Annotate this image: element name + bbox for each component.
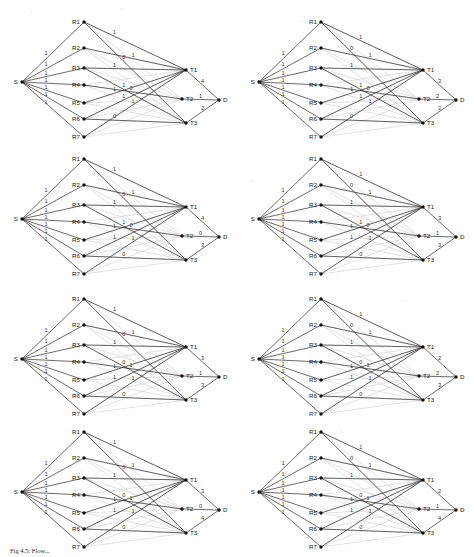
node-relay-R3-dot	[319, 476, 322, 479]
edge-label-R2-T1: 1	[368, 462, 371, 468]
edge-label-S-R3: 1	[44, 480, 47, 486]
faint-edge-R7-T3	[84, 400, 186, 414]
edge-label-R1-T1: 1	[113, 439, 116, 445]
node-source-S-dot	[20, 357, 23, 360]
node-relay-R3-dot	[319, 343, 322, 346]
node-terminal-T2-dot	[417, 507, 420, 510]
edge-label-T3-D: 2	[201, 105, 204, 111]
node-terminal-T3-label: T3	[427, 529, 435, 536]
edge-label-R3-T1: 1	[113, 472, 116, 478]
node-terminal-T2-label: T2	[423, 232, 431, 239]
edge-R5-T1	[84, 347, 186, 380]
edge-R1-T1	[84, 299, 186, 347]
edge-R5-T1	[84, 480, 186, 513]
node-sink-D-dot	[217, 508, 220, 511]
edge-label-R3-T3: 1	[122, 82, 125, 88]
edge-S-R1	[259, 22, 321, 82]
node-relay-R2-dot	[82, 323, 85, 326]
edge-label-S-R6: 1	[281, 501, 284, 507]
node-relay-R3-label: R3	[72, 64, 80, 71]
node-source-S-dot	[257, 217, 260, 220]
edge-label-R1-T1: 1	[359, 171, 362, 177]
node-relay-R5-label: R5	[309, 236, 317, 243]
panel-canvas-0: 11111111011101110412SR1R2R3R4R5R6R7T1T2T…	[0, 4, 237, 140]
edge-label-R6-T3: 0	[359, 391, 362, 397]
edge-R3-T1	[84, 478, 186, 480]
edge-label-T1-D: 4	[201, 78, 204, 84]
node-relay-R7-dot	[82, 272, 85, 275]
faint-edge-R7-T3	[84, 260, 186, 274]
edge-label-S-R1: 1	[44, 460, 47, 466]
edge-label-R1-T3: 0	[122, 54, 125, 60]
node-terminal-T1-dot	[184, 205, 187, 208]
edge-label-S-R5: 1	[44, 361, 47, 367]
node-relay-R3-label: R3	[309, 64, 317, 71]
flow-network-panel-1: 11111110111101110322SR1R2R3R4R5R6R7T1T2T…	[237, 4, 474, 140]
node-source-S-label: S	[14, 215, 18, 222]
edge-label-R2-T1: 1	[131, 329, 134, 335]
node-relay-R5-dot	[82, 378, 85, 381]
node-terminal-T2-dot	[180, 507, 183, 510]
node-relay-R6-dot	[82, 254, 85, 257]
node-relay-R3-label: R3	[72, 201, 80, 208]
edge-label-T1-D: 2	[438, 488, 441, 494]
edge-label-R2-T1: 1	[368, 329, 371, 335]
edge-R3-T1	[321, 478, 423, 480]
node-relay-R6-dot	[82, 394, 85, 397]
edge-label-R6-T3: 0	[113, 113, 116, 119]
edge-label-S-R1: 1	[281, 327, 284, 333]
node-relay-R1-dot	[82, 20, 85, 23]
edge-label-R3-T1: 1	[113, 339, 116, 345]
edge-label-T3-D: 2	[438, 105, 441, 111]
edge-label-S-R6: 1	[281, 91, 284, 97]
node-relay-R2-label: R2	[309, 321, 317, 328]
node-terminal-T2-label: T2	[186, 95, 194, 102]
node-relay-R1-dot	[82, 430, 85, 433]
faint-edge-R5-T3	[321, 380, 423, 400]
node-terminal-T3-dot	[421, 121, 424, 124]
edge-label-R1-T3: 0	[350, 322, 353, 328]
node-relay-R1-dot	[319, 157, 322, 160]
edge-label-S-R7: 1	[44, 99, 47, 105]
edge-label-R2-T1: 1	[368, 52, 371, 58]
node-terminal-T1-dot	[421, 345, 424, 348]
edge-label-S-R6: 1	[44, 228, 47, 234]
edge-S-R7	[259, 492, 321, 547]
node-terminal-T2-label: T2	[186, 505, 194, 512]
edge-label-S-R7: 1	[281, 509, 284, 515]
edge-label-T3-D: 3	[201, 382, 204, 388]
edge-S-R7	[22, 359, 84, 414]
edge-R5-T1	[321, 480, 423, 513]
edge-S-R7	[22, 82, 84, 137]
node-relay-R5-label: R5	[72, 509, 80, 516]
node-sink-D-label: D	[460, 233, 465, 240]
edge-label-R7-T1: 1	[368, 375, 371, 381]
edge-R1-T1	[321, 159, 423, 207]
edge-R6-T3	[321, 256, 423, 260]
node-relay-R2-dot	[319, 183, 322, 186]
flow-network-panel-5: 11111110111011011223SR1R2R3R4R5R6R7T1T2T…	[237, 281, 474, 417]
edge-label-S-R4: 1	[44, 77, 47, 83]
figure-caption: Fig 4.5: Flow...	[10, 546, 470, 555]
edge-label-S-R5: 1	[281, 84, 284, 90]
edge-label-R3-T1: 1	[350, 199, 353, 205]
panel-canvas-6: 11111111011011011304SR1R2R3R4R5R6R7T1T2T…	[0, 414, 237, 550]
edge-S-R1	[259, 159, 321, 219]
node-terminal-T1-dot	[184, 345, 187, 348]
edge-S-R7	[259, 219, 321, 274]
node-relay-R6-label: R6	[72, 252, 80, 259]
node-relay-R4-label: R4	[72, 491, 80, 498]
node-source-S-label: S	[251, 78, 255, 85]
edge-R1-T1	[84, 432, 186, 480]
edge-R1-T1	[321, 22, 423, 70]
edge-label-T2-D: 0	[199, 230, 202, 236]
node-relay-R5-dot	[82, 511, 85, 514]
node-relay-R7-label: R7	[309, 133, 317, 140]
node-relay-R4-dot	[82, 83, 85, 86]
node-terminal-T1-label: T1	[190, 66, 198, 73]
panel-grid: 11111111011101110412SR1R2R3R4R5R6R7T1T2T…	[0, 0, 474, 545]
scan-speck-3	[420, 60, 423, 62]
edge-label-S-R5: 1	[281, 221, 284, 227]
node-terminal-T3-label: T3	[427, 396, 435, 403]
scan-speck-5	[250, 180, 253, 182]
